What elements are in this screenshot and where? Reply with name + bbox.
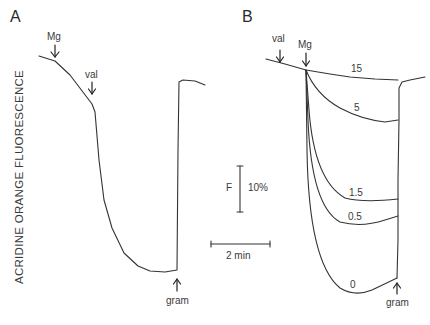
panel-b-trace-15 xyxy=(266,59,398,80)
trace-label-0-5: 0.5 xyxy=(348,212,362,222)
panel-b-recovery xyxy=(397,77,425,278)
panel-a-mg-label: Mg xyxy=(47,32,61,42)
y-axis-label: ACRIDINE ORANGE FLUORESCENCE xyxy=(13,70,25,284)
figure: A B Mg val gram val Mg gram 15 5 1.5 0.5… xyxy=(0,0,430,325)
panel-a-letter: A xyxy=(10,9,21,25)
panel-a-trace xyxy=(39,56,205,272)
trace-label-0: 0 xyxy=(350,280,356,290)
panel-b-trace-1-5 xyxy=(306,70,398,201)
figure-traces xyxy=(0,0,430,325)
panel-b-trace-0 xyxy=(306,70,397,293)
panel-b-mg-label: Mg xyxy=(298,40,312,50)
trace-label-15: 15 xyxy=(351,64,362,74)
panel-b-letter: B xyxy=(242,9,253,25)
panel-a-val-label: val xyxy=(85,70,98,80)
panel-a-gram-label: gram xyxy=(166,296,189,306)
scale-10pct-label: 10% xyxy=(248,183,268,193)
panel-b-trace-5 xyxy=(306,70,398,122)
trace-label-1-5: 1.5 xyxy=(349,188,363,198)
scale-f-label: F xyxy=(226,183,232,193)
trace-label-5: 5 xyxy=(354,103,360,113)
scale-2min-label: 2 min xyxy=(226,251,250,261)
panel-b-val-label: val xyxy=(272,34,285,44)
panel-b-gram-label: gram xyxy=(386,298,409,308)
panel-b-trace-0-5 xyxy=(306,70,398,224)
